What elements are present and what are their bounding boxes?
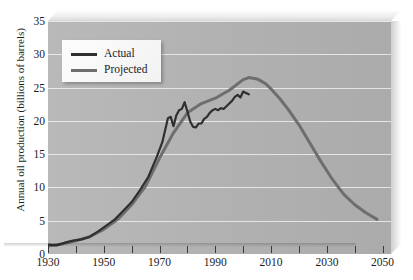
legend-swatch-actual (71, 53, 97, 56)
y-tick-label: 30 (23, 49, 45, 59)
y-tick-label: 35 (23, 16, 45, 26)
x-tick-mark (160, 246, 161, 253)
chart-legend: Actual Projected (62, 40, 161, 82)
x-tick-label: 1930 (28, 256, 68, 268)
x-tick-label: 2030 (307, 256, 347, 268)
x-tick-label: 1990 (195, 256, 235, 268)
legend-label-actual: Actual (104, 47, 135, 59)
x-tick-mark (104, 246, 105, 253)
x-tick-label: 1950 (84, 256, 124, 268)
y-axis-tick-labels: 05101520253035 (21, 0, 45, 280)
x-tick-mark (215, 246, 216, 253)
y-tick-label: 25 (23, 83, 45, 93)
x-tick-label: 2050 (363, 256, 403, 268)
y-tick-label: 20 (23, 116, 45, 126)
y-tick-label: 15 (23, 149, 45, 159)
y-tick-label: 5 (23, 216, 45, 226)
x-tick-mark (132, 246, 133, 253)
oil-production-chart-figure: Annual oil production (billions of barre… (0, 0, 413, 280)
x-tick-label: 2010 (251, 256, 291, 268)
legend-label-projected: Projected (104, 63, 147, 75)
x-tick-mark (327, 246, 328, 253)
x-tick-mark (383, 246, 384, 253)
x-axis-tick-labels: 1930195019701990201020302050 (0, 256, 413, 272)
x-tick-mark (243, 246, 244, 253)
legend-swatch-projected (71, 69, 97, 72)
x-tick-mark (76, 246, 77, 253)
x-tick-mark (187, 246, 188, 253)
x-tick-label: 1970 (140, 256, 180, 268)
legend-entry-projected: Projected (71, 63, 161, 77)
x-tick-mark (355, 246, 356, 253)
x-tick-mark (299, 246, 300, 253)
y-tick-label: 10 (23, 182, 45, 192)
legend-entry-actual: Actual (71, 47, 161, 61)
x-tick-mark (48, 246, 49, 253)
x-tick-mark (271, 246, 272, 253)
